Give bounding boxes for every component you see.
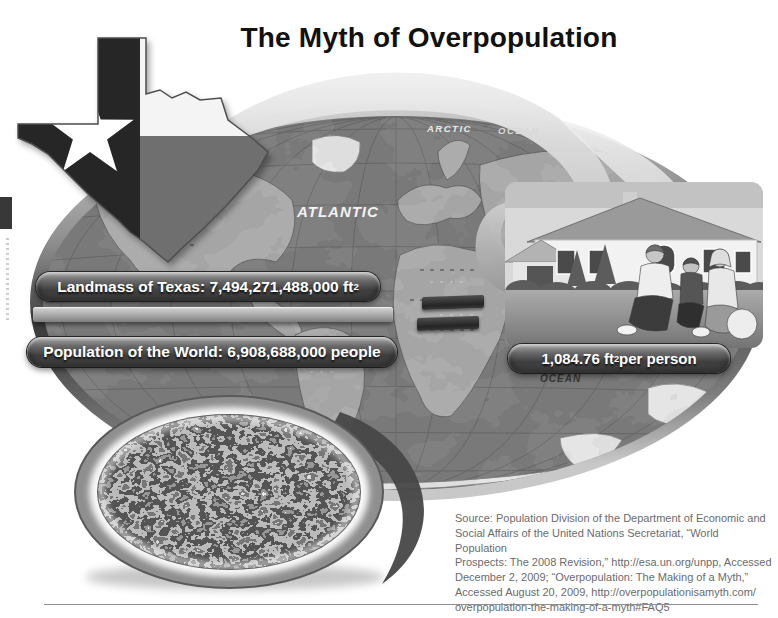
equals-sign-bottom-bar [417, 316, 479, 331]
landmass-text: Landmass of Texas: 7,494,271,488,000 ft [57, 278, 353, 296]
population-banner: Population of the World: 6,908,688,000 p… [27, 337, 397, 367]
source-line: overpopulation-the-making-of-a-myth#FAQ5 [455, 600, 773, 615]
label-ocean-right: OCEAN [540, 373, 581, 384]
per-person-banner: 1,084.76 ft2 per person [508, 344, 730, 373]
flag-red-field [140, 136, 296, 266]
left-vertical-credit-marks [6, 238, 9, 320]
crowd-photo-oval [75, 396, 385, 590]
source-citation: Source: Population Division of the Depar… [455, 511, 773, 615]
per-person-value: 1,084.76 ft [541, 350, 614, 367]
label-atlantic: ATLANTIC [296, 203, 379, 220]
bottom-divider-line [44, 604, 758, 605]
white-ball [727, 309, 757, 339]
infographic-page: ARCTIC OCEAN ATLANTIC OCEAN [0, 0, 778, 618]
equals-sign-top-bar [422, 295, 484, 310]
population-text: Population of the World: 6,908,688,000 p… [43, 343, 380, 361]
per-person-suffix: per person [619, 350, 697, 367]
label-ocean-top: OCEAN [498, 125, 540, 136]
source-line: Prospects: The 2008 Revision,” http://es… [455, 555, 773, 570]
texas-flag-shape [14, 34, 296, 266]
source-line: Accessed August 20, 2009, http://overpop… [455, 585, 773, 600]
source-line: Social Affairs of the United Nations Sec… [455, 526, 773, 556]
left-edge-chip [0, 197, 12, 229]
division-bar [33, 307, 393, 322]
source-line: Source: Population Division of the Depar… [455, 511, 773, 526]
family-house-photo [505, 182, 775, 348]
page-title: The Myth of Overpopulation [90, 22, 768, 54]
source-line: December 2, 2009; “Overpopulation: The M… [455, 570, 773, 585]
landmass-banner: Landmass of Texas: 7,494,271,488,000 ft2 [36, 272, 380, 301]
label-arctic: ARCTIC [426, 123, 472, 134]
